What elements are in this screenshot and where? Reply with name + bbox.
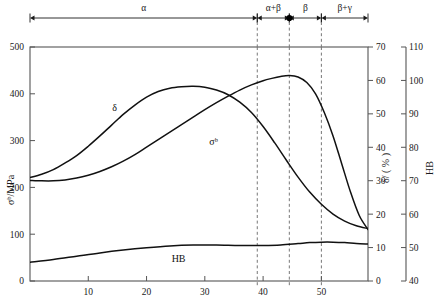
hb-tick-label-90: 90 xyxy=(409,109,419,119)
delta-tick-label-0: 0 xyxy=(376,276,381,286)
hb-tick-label-60: 60 xyxy=(409,210,419,220)
phase-label-3: β+γ xyxy=(337,3,351,13)
delta-tick-label-40: 40 xyxy=(376,143,386,153)
hb-tick-label-40: 40 xyxy=(409,276,419,286)
x-tick-label-50: 50 xyxy=(317,287,327,297)
hb-tick-label-50: 50 xyxy=(409,243,419,253)
phase-label-2: β xyxy=(303,3,308,13)
delta-tick-label-60: 60 xyxy=(376,76,386,86)
phase-label-0: α xyxy=(141,3,146,13)
phase-label-1: α+β xyxy=(266,3,281,13)
sigma-tick-label-100: 100 xyxy=(10,230,25,240)
delta-tick-label-10: 10 xyxy=(376,243,386,253)
x-tick-label-40: 40 xyxy=(258,287,268,297)
curve-label-1: δ xyxy=(112,102,117,113)
hb-tick-label-80: 80 xyxy=(409,143,419,153)
sigma-tick-label-500: 500 xyxy=(10,42,25,52)
x-tick-label-30: 30 xyxy=(200,287,210,297)
sigma-tick-label-0: 0 xyxy=(19,276,24,286)
hb-tick-label-70: 70 xyxy=(409,176,419,186)
sigma-tick-label-300: 300 xyxy=(10,136,25,146)
hb-tick-label-100: 100 xyxy=(409,76,424,86)
delta-tick-label-50: 50 xyxy=(376,109,386,119)
x-tick-label-10: 10 xyxy=(84,287,94,297)
hb-tick-label-110: 110 xyxy=(409,42,423,52)
chart-root: αα+βββ+γ 1020304050 0100200300400500 010… xyxy=(0,0,442,306)
curve-label-2: HB xyxy=(172,253,186,264)
phase-marker-dot xyxy=(286,15,292,21)
delta-tick-label-70: 70 xyxy=(376,42,386,52)
sigma-axis-title: σᵇ/MPa xyxy=(5,174,16,205)
curve-label-0: σᵇ xyxy=(209,136,218,147)
mechanical-properties-chart: αα+βββ+γ 1020304050 0100200300400500 010… xyxy=(0,0,442,306)
x-tick-label-20: 20 xyxy=(142,287,152,297)
sigma-tick-label-400: 400 xyxy=(10,89,25,99)
delta-axis-title: δ/ ( % ) xyxy=(380,153,392,183)
hb-axis-title: HB xyxy=(424,161,435,175)
delta-tick-label-20: 20 xyxy=(376,210,386,220)
